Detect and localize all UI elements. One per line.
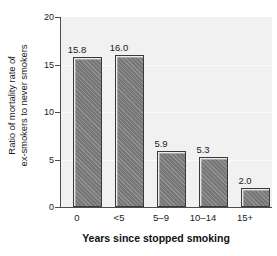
y-tick-label-5: 5 [38, 155, 54, 165]
x-tick-label-5-9: 5–9 [142, 212, 180, 223]
y-axis-title-line-2: ex-smokers to never smokers [18, 44, 30, 166]
y-axis-tick-labels: 20 15 10 5 0 [34, 0, 54, 256]
value-label-15plus: 2.0 [226, 175, 264, 186]
x-axis-line [60, 207, 272, 208]
y-axis-line [60, 17, 61, 208]
bar-0 [73, 57, 102, 207]
bar-15plus [241, 188, 270, 207]
y-tick-label-20: 20 [38, 12, 54, 22]
y-axis-title-line-1: Ratio of mortality rate of [7, 44, 19, 166]
x-tick-label-10-14: 10–14 [184, 212, 222, 223]
x-tick-label-0: 0 [58, 212, 96, 223]
x-axis-title: Years since stopped smoking [40, 232, 272, 244]
y-tick-label-15: 15 [38, 60, 54, 70]
bar-chart-figure: Ratio of mortality rate of ex-smokers to… [0, 0, 277, 256]
x-tick-label-lt5: <5 [100, 212, 138, 223]
x-tick-label-15plus: 15+ [226, 212, 264, 223]
value-label-0: 15.8 [58, 44, 96, 55]
value-label-5-9: 5.9 [142, 138, 180, 149]
y-tick-label-10: 10 [38, 107, 54, 117]
bar-5-9 [157, 151, 186, 207]
bar-lt5 [115, 55, 144, 207]
value-label-lt5: 16.0 [100, 42, 138, 53]
value-label-10-14: 5.3 [184, 144, 222, 155]
bar-10-14 [199, 157, 228, 207]
y-axis-title: Ratio of mortality rate of ex-smokers to… [0, 0, 36, 210]
y-tick-label-0: 0 [38, 202, 54, 212]
